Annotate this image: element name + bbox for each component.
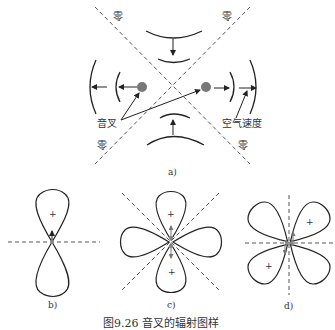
tuning-fork-label: 音叉 (97, 119, 117, 129)
figure-caption: 图9.26 音叉的辐射图样 (103, 318, 219, 329)
leader-air-velocity (236, 91, 247, 118)
panel-d (243, 195, 335, 295)
panel-a-label: a) (168, 168, 177, 177)
panel-b-label: b) (48, 301, 57, 310)
tuning-fork-prong-right (201, 82, 211, 92)
plus-sign: + (168, 268, 176, 277)
wavefront-bottom-inner (160, 114, 190, 118)
panel-c-label: c) (167, 301, 176, 310)
lobe-right (173, 227, 222, 257)
panel-a (90, 7, 256, 164)
wavefront-top-inner (158, 59, 190, 63)
tuning-fork-prong-left (137, 82, 147, 92)
wavefront-right-inner (230, 72, 234, 102)
plus-sign: + (306, 218, 314, 227)
air-velocity-label: 空气速度 (222, 119, 262, 129)
zero-label-bottom-left: 零 (97, 141, 107, 151)
wavefront-right-outer (250, 60, 256, 114)
lobe-bottom (36, 242, 69, 297)
zero-label-top-left: 零 (113, 12, 123, 22)
plus-sign: + (49, 210, 57, 219)
zero-label-top-right: 零 (222, 12, 232, 22)
wavefront-top-outer (146, 31, 202, 38)
zero-label-bottom-right: 零 (238, 141, 248, 151)
plus-sign: + (167, 210, 175, 219)
panel-c (121, 192, 222, 293)
plus-sign: + (265, 262, 273, 271)
panel-b (8, 190, 100, 297)
leader-fork-left (121, 93, 139, 120)
panel-d-label: d) (284, 302, 293, 311)
lobe-left (121, 227, 170, 257)
leader-fork-right (121, 90, 200, 120)
wavefront-bottom-outer (147, 137, 204, 146)
